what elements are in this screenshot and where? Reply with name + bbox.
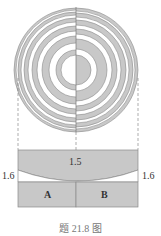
right-index-label: 1.6 bbox=[142, 171, 155, 181]
figure-caption: 题 21.8 图 bbox=[0, 220, 161, 235]
region-a-label: A bbox=[44, 190, 51, 200]
lens-index-label: 1.5 bbox=[69, 157, 82, 167]
left-index-label: 1.6 bbox=[2, 171, 15, 181]
region-b-label: B bbox=[101, 190, 108, 200]
newtons-rings-diagram bbox=[0, 0, 161, 236]
